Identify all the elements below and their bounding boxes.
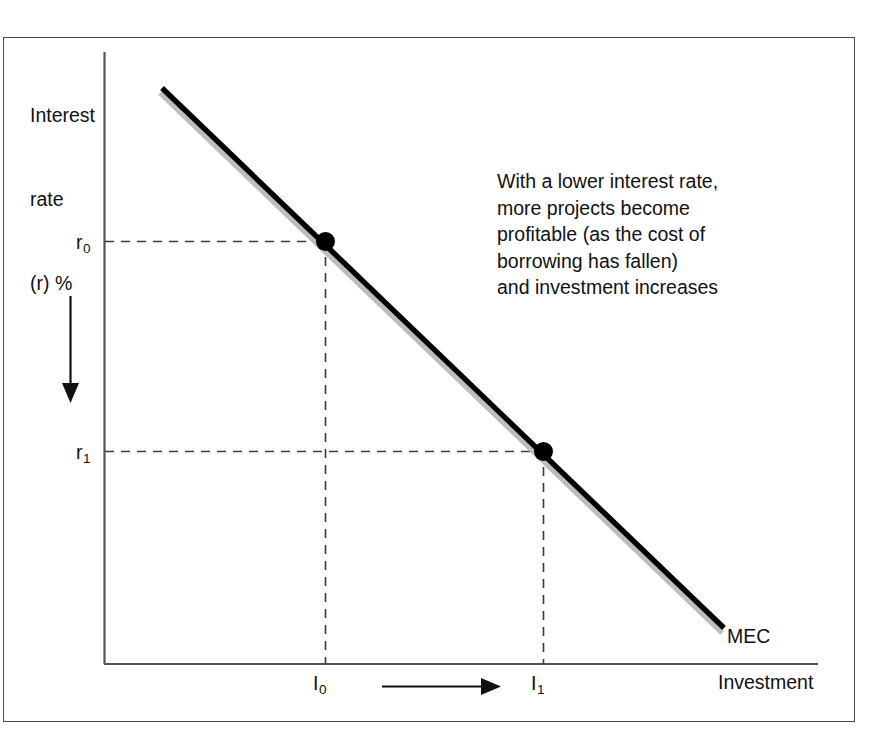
- plot-canvas: [0, 0, 881, 734]
- annotation-line-4: borrowing has fallen): [497, 248, 718, 275]
- mec-curve-label: MEC: [727, 625, 770, 648]
- annotation-line-3: profitable (as the cost of: [497, 221, 718, 248]
- annotation-text: With a lower interest rate, more project…: [497, 168, 718, 301]
- investment-right-arrow: [382, 678, 501, 695]
- x-axis-title: Investment: [718, 668, 813, 696]
- y-tick-r0-subscript: 0: [83, 241, 91, 256]
- point-marker-r1-i1: [534, 442, 553, 461]
- annotation-line-1: With a lower interest rate,: [497, 168, 718, 195]
- point-marker-r0-i0: [316, 232, 335, 251]
- y-tick-r0-base: r: [76, 231, 83, 253]
- x-tick-i0-base: I: [313, 672, 318, 694]
- y-axis-title-line-1: Interest: [30, 101, 95, 129]
- x-tick-i0-subscript: 0: [319, 682, 327, 697]
- x-tick-label-i1: I1: [531, 672, 544, 695]
- y-axis-title-line-3: (r) %: [30, 269, 95, 297]
- x-tick-i1-base: I: [531, 672, 536, 694]
- y-tick-label-r1: r1: [76, 441, 90, 464]
- x-tick-i1-subscript: 1: [537, 682, 545, 697]
- y-axis-title: Interest rate (r) %: [30, 45, 95, 353]
- y-tick-label-r0: r0: [76, 231, 90, 254]
- annotation-line-2: more projects become: [497, 195, 718, 222]
- y-tick-r1-base: r: [76, 441, 83, 463]
- x-tick-label-i0: I0: [313, 672, 326, 695]
- y-tick-r1-subscript: 1: [83, 451, 91, 466]
- annotation-line-5: and investment increases: [497, 274, 718, 301]
- y-axis-title-line-2: rate: [30, 185, 95, 213]
- figure-root: Interest rate (r) % Investment MEC With …: [0, 0, 881, 734]
